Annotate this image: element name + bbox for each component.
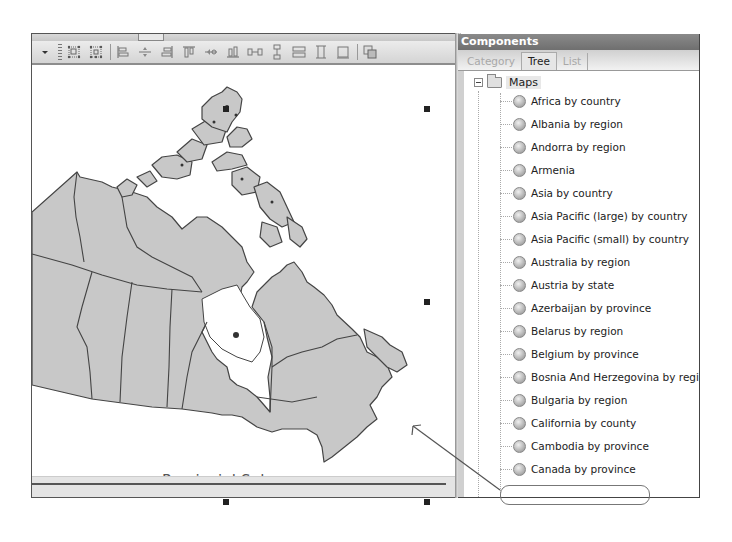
- space-vertical-icon[interactable]: [268, 43, 286, 61]
- globe-icon: [513, 141, 526, 154]
- canada-map[interactable]: [32, 67, 457, 477]
- tree-root-maps[interactable]: Maps: [474, 74, 541, 90]
- globe-icon: [513, 348, 526, 361]
- tree-item[interactable]: Africa by country: [500, 91, 621, 111]
- tree-item[interactable]: Armenia: [500, 160, 575, 180]
- globe-icon: [513, 256, 526, 269]
- components-tabs: Category Tree List: [458, 50, 699, 71]
- highlight-callout: [500, 485, 650, 505]
- layout-grid-alt-icon[interactable]: [87, 43, 105, 61]
- resize-handle-top-right[interactable]: [424, 106, 430, 112]
- tree-item[interactable]: Australia by region: [500, 252, 630, 272]
- align-right-icon[interactable]: [158, 43, 176, 61]
- globe-icon: [513, 302, 526, 315]
- same-width-icon[interactable]: [290, 43, 308, 61]
- globe-icon: [513, 417, 526, 430]
- tree-item[interactable]: Asia Pacific (small) by country: [500, 229, 689, 249]
- tree-item[interactable]: Asia by country: [500, 183, 613, 203]
- resize-handle-top-left[interactable]: [223, 106, 229, 112]
- tab-tree[interactable]: Tree: [521, 52, 557, 70]
- same-size-icon[interactable]: [334, 43, 352, 61]
- tree-item[interactable]: Andorra by region: [500, 137, 626, 157]
- tree-item[interactable]: California by county: [500, 413, 636, 433]
- tree-item[interactable]: Albania by region: [500, 114, 623, 134]
- tree-item-canada-by-province[interactable]: Canada by province: [500, 459, 636, 479]
- globe-icon: [513, 279, 526, 292]
- tree-root-label: Maps: [506, 76, 541, 89]
- toolbar-separator: [357, 44, 358, 60]
- components-title: Components: [458, 34, 699, 50]
- layout-grid-icon[interactable]: [65, 43, 83, 61]
- resize-handle-bottom-left[interactable]: [223, 499, 229, 505]
- globe-icon: [513, 371, 526, 384]
- globe-icon: [513, 164, 526, 177]
- collapse-icon[interactable]: [474, 78, 483, 87]
- resize-handle-right-middle[interactable]: [424, 299, 430, 305]
- scroll-track[interactable]: [32, 483, 446, 485]
- tree-item[interactable]: Belgium by province: [500, 344, 639, 364]
- tree-item[interactable]: Cambodia by province: [500, 436, 649, 456]
- tree-item[interactable]: Belarus by region: [500, 321, 623, 341]
- globe-icon: [513, 118, 526, 131]
- align-bottom-icon[interactable]: [224, 43, 242, 61]
- globe-icon: [513, 233, 526, 246]
- bring-to-front-icon[interactable]: [361, 43, 379, 61]
- layout-toolbar: [32, 41, 456, 65]
- design-canvas[interactable]: Provincial Sales: [32, 67, 456, 477]
- tree-item[interactable]: Bosnia And Herzegovina by region: [500, 367, 699, 387]
- folder-icon: [487, 77, 502, 88]
- tab-indicator[interactable]: [138, 34, 164, 41]
- align-middle-icon[interactable]: [202, 43, 220, 61]
- designer-bottom-bar: [32, 476, 456, 497]
- tree-guide-line: [478, 91, 479, 497]
- align-top-icon[interactable]: [180, 43, 198, 61]
- globe-icon: [513, 187, 526, 200]
- align-left-icon[interactable]: [114, 43, 132, 61]
- tab-category[interactable]: Category: [461, 53, 521, 70]
- toolbar-grip[interactable]: [58, 44, 62, 60]
- align-center-icon[interactable]: [136, 43, 154, 61]
- tree-item[interactable]: Asia Pacific (large) by country: [500, 206, 688, 226]
- components-panel: Components Category Tree List Maps Afric…: [458, 34, 700, 498]
- tree-item[interactable]: Azerbaijan by province: [500, 298, 651, 318]
- globe-icon: [513, 325, 526, 338]
- components-tree[interactable]: Maps Africa by country Albania by region…: [458, 71, 699, 497]
- globe-icon: [513, 210, 526, 223]
- globe-icon: [513, 440, 526, 453]
- chevron-down-icon[interactable]: [36, 43, 54, 61]
- globe-icon: [513, 394, 526, 407]
- resize-handle-bottom-right[interactable]: [424, 499, 430, 505]
- same-height-icon[interactable]: [312, 43, 330, 61]
- tree-item[interactable]: Bulgaria by region: [500, 390, 627, 410]
- tree-item[interactable]: Austria by state: [500, 275, 614, 295]
- space-horizontal-icon[interactable]: [246, 43, 264, 61]
- globe-icon: [513, 463, 526, 476]
- globe-icon: [513, 95, 526, 108]
- designer-window: Provincial Sales: [31, 33, 456, 498]
- toolbar-separator: [110, 44, 111, 60]
- tab-list[interactable]: List: [557, 53, 588, 70]
